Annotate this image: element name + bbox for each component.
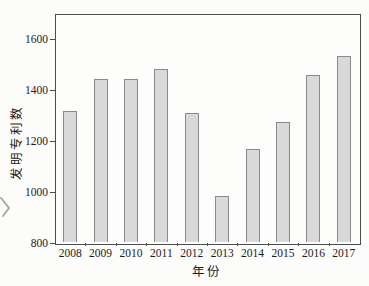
y-axis-title: 发明专利数 [6,105,25,180]
bar-2014 [246,149,260,242]
x-tick-label: 2010 [115,247,147,260]
x-axis-tick [177,243,178,246]
y-tick-label: 800 [12,236,48,250]
x-tick-label: 2011 [145,247,177,260]
x-axis-tick [298,243,299,246]
x-tick-label: 2013 [206,247,238,260]
x-axis-tick [329,243,330,246]
y-axis-tick [50,90,55,91]
x-tick-label: 2012 [176,247,208,260]
patent-bar-chart-figure: 2008200920102011201220132014201520162017… [0,0,369,286]
bar-2017 [337,56,351,242]
x-tick-label: 2016 [297,247,329,260]
bar-2016 [306,75,320,242]
x-axis-tick [85,243,86,246]
y-axis-tick [50,39,55,40]
bar-2011 [154,69,168,242]
x-axis-tick [207,243,208,246]
x-tick-label: 2017 [328,247,360,260]
scan-artifact-mark [0,192,14,222]
bar-2013 [215,196,229,242]
y-tick-label: 1600 [12,32,48,46]
y-axis-tick [50,243,55,244]
bar-2008 [63,111,77,242]
y-tick-label: 1000 [12,185,48,199]
x-tick-label: 2015 [267,247,299,260]
bar-2009 [94,79,108,242]
x-tick-label: 2008 [54,247,86,260]
y-tick-label: 1400 [12,83,48,97]
bar-2012 [185,113,199,242]
bar-2010 [124,79,138,242]
x-axis-tick [237,243,238,246]
y-axis-tick [50,141,55,142]
x-axis-tick [116,243,117,246]
x-axis-tick [146,243,147,246]
bar-2015 [276,122,290,242]
x-axis-title: 年份 [187,261,227,280]
x-axis-tick [268,243,269,246]
x-tick-label: 2009 [85,247,117,260]
x-tick-label: 2014 [237,247,269,260]
y-axis-tick [50,192,55,193]
